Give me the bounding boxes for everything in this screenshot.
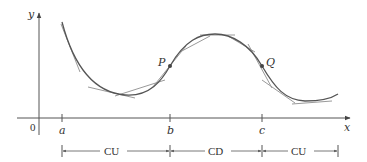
origin-label: 0 [30,121,36,133]
tangent-lines [61,24,332,104]
concavity-diagram: y x 0 a b c P Q [0,0,367,162]
x-axis-label: x [344,121,351,134]
interval-label-3: CU [291,145,306,157]
function-curve [62,22,338,101]
inflection-point-P: P [157,56,172,69]
tick-label-a: a [59,124,66,137]
y-axis-label: y [27,8,35,21]
tick-label-b: b [167,124,174,137]
concavity-intervals: CU CD CU [62,145,338,157]
x-ticks: a b c [59,114,265,137]
inflection-point-Q: Q [260,56,275,69]
point-label-P: P [157,56,166,69]
interval-label-1: CU [104,145,119,157]
tick-label-c: c [259,124,265,137]
interval-label-2: CD [208,145,223,157]
point-label-Q: Q [266,56,275,69]
axes: y x 0 [17,8,351,135]
